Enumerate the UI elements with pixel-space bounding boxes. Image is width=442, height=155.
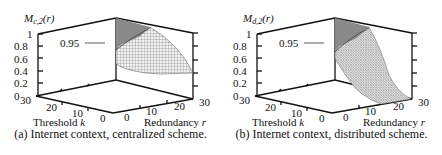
ztick-0.6: 0.6: [14, 54, 28, 65]
ktick-20: 20: [265, 102, 276, 113]
ztick-0: 0: [233, 91, 239, 102]
zlabel-b: Md,2(r): [243, 13, 274, 26]
ztick-0.4: 0.4: [14, 66, 28, 77]
rtick-20: 20: [174, 101, 185, 112]
ktick-0: 0: [319, 113, 325, 124]
ztick-0.8: 0.8: [233, 41, 247, 52]
ztick-0.2: 0.2: [14, 78, 28, 89]
ztick-0.2: 0.2: [233, 78, 247, 89]
caption-a: (a) Internet context, centralized scheme…: [0, 127, 221, 142]
rtick-0: 0: [124, 112, 130, 123]
panel-centralized: Mc,2(r) 1 0.8 0.6 0.4 0.2 0 0.95 30 20 1…: [0, 0, 221, 155]
ztick-0.4: 0.4: [233, 66, 247, 77]
rtick-30: 30: [199, 97, 210, 108]
rtick-0: 0: [343, 112, 349, 123]
caption-b: (b) Internet context, distributed scheme…: [221, 127, 442, 142]
panel-distributed: Md,2(r) 1 0.8 0.6 0.4 0.2 0 0.95 30 20 1…: [221, 0, 442, 155]
ztick-1: 1: [246, 29, 252, 40]
zlabel-a: Mc,2(r): [24, 13, 54, 26]
ztick-1: 1: [27, 29, 33, 40]
legend-label-b: 0.95: [279, 38, 298, 49]
legend-label-a: 0.95: [60, 38, 79, 49]
ktick-30: 30: [20, 95, 31, 106]
ktick-20: 20: [46, 102, 57, 113]
ztick-0: 0: [14, 91, 20, 102]
ktick-0: 0: [100, 113, 106, 124]
rtick-30: 30: [418, 97, 429, 108]
ztick-0.6: 0.6: [233, 54, 247, 65]
ztick-0.8: 0.8: [14, 41, 28, 52]
ktick-30: 30: [239, 95, 250, 106]
rtick-20: 20: [393, 101, 404, 112]
